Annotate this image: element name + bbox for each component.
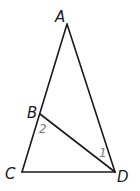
segment-bd: [40, 114, 115, 172]
segment-ac: [22, 24, 67, 172]
vertex-label-b: B: [27, 104, 37, 122]
vertex-label-c: C: [5, 165, 16, 183]
segment-ad: [67, 24, 115, 172]
vertex-label-a: A: [54, 8, 65, 26]
vertex-label-d: D: [117, 168, 129, 186]
triangle-diagram: A B C D 2 1: [0, 0, 140, 191]
angle-label-1: 1: [99, 146, 107, 160]
angle-label-2: 2: [39, 122, 47, 136]
